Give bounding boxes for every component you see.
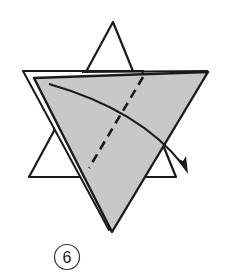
- origami-step-diagram: 6: [0, 0, 233, 277]
- step-number: 6: [63, 249, 72, 266]
- top-edge-line: [82, 71, 208, 72]
